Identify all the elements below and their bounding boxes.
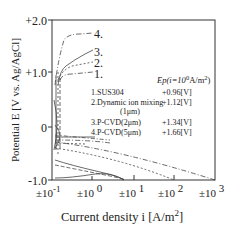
y-tick-label: +1.0 — [25, 66, 47, 80]
curve-3 — [58, 50, 93, 85]
legend-item-1-name: 1.SUS304 — [91, 88, 124, 97]
legend-item-2-sub: (1μm) — [120, 107, 140, 116]
legend-item-3-name: 3.P-CVD(2μm) — [91, 118, 141, 127]
legend-item-4-ep: +1.66[V] — [162, 128, 192, 137]
x-tick-label: ±10-1 — [36, 184, 61, 199]
y-tick-label: +2.0 — [25, 14, 47, 28]
curve-2 — [58, 62, 93, 80]
x-tick-label: ±10 0 — [77, 182, 103, 199]
y-tick-label: 0 — [41, 121, 47, 135]
curve-label-1: 1. — [94, 67, 103, 81]
legend-item-2-ep: +1.12[V] — [162, 98, 192, 107]
y-axis-label: Potential E [V vs. Ag/AgCl] — [9, 38, 21, 162]
legend-header: Ep(i=100A/m2) — [156, 74, 211, 85]
x-tick-label: ±10 1 — [119, 182, 144, 199]
y-tick-label: -1.0 — [28, 174, 47, 188]
x-tick-label: ±10 2 — [158, 182, 183, 199]
curve-1 — [60, 72, 93, 80]
legend-item-3-ep: +1.34[V] — [162, 118, 192, 127]
legend-item-4-name: 4.P-CVD(5μm) — [91, 128, 141, 137]
polarization-chart: +2.0 +1.0 0 -1.0 Potential E [V vs. Ag/A… — [0, 0, 243, 233]
legend-item-1-ep: +0.96[V] — [162, 88, 192, 97]
y-tick-marks — [48, 20, 52, 180]
x-tick-marks — [92, 175, 174, 180]
curve-label-4: 4. — [94, 27, 103, 41]
x-tick-label: ±10 3 — [199, 182, 225, 199]
legend-item-2-name: 2.Dynamic ion mixing — [91, 98, 163, 107]
legend: Ep(i=100A/m2) 1.SUS304 +0.96[V] 2.Dynami… — [91, 74, 211, 137]
curve-4 — [55, 33, 93, 85]
x-axis-label: Current density i [A/m2] — [61, 208, 183, 224]
